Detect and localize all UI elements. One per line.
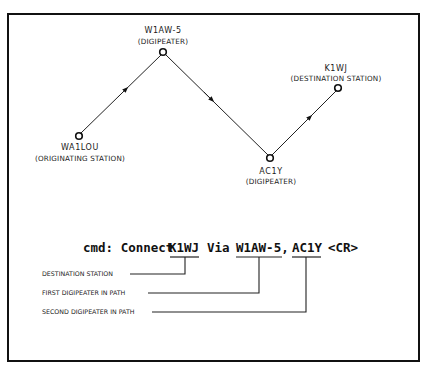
command-digi2: AC1Y	[292, 240, 323, 255]
station-circle-icon	[76, 133, 83, 140]
arrow-icon	[303, 117, 310, 124]
node-wa1lou: WA1LOU (ORIGINATING STATION)	[35, 133, 125, 163]
command-terminator: <CR>	[328, 240, 358, 255]
leader-digi2	[152, 257, 306, 312]
node-call: W1AW-5	[144, 26, 181, 35]
command-digi1: W1AW-5,	[236, 240, 289, 255]
node-call: K1WJ	[324, 64, 347, 73]
station-circle-icon	[267, 155, 274, 162]
node-call: WA1LOU	[61, 143, 99, 152]
command-destination: K1WJ	[169, 240, 199, 255]
arrow-icon	[118, 89, 126, 97]
node-role: (DESTINATION STATION)	[291, 74, 382, 83]
node-ac1y: AC1Y (DIGIPEATER)	[246, 155, 297, 186]
node-role: (ORIGINATING STATION)	[35, 154, 125, 163]
command-via: Via	[207, 240, 230, 255]
node-call: AC1Y	[259, 167, 282, 176]
digipeater-path-diagram: WA1LOU (ORIGINATING STATION) W1AW-5 (DIG…	[0, 0, 434, 382]
path-edges	[81, 55, 336, 155]
node-k1wj: K1WJ (DESTINATION STATION)	[291, 64, 382, 91]
annotation-first-digi: FIRST DIGIPEATER IN PATH	[42, 289, 126, 296]
leader-destination	[130, 257, 185, 274]
station-circle-icon	[160, 49, 167, 56]
command-prefix: cmd: Connect	[83, 240, 173, 255]
leader-digi1	[148, 257, 259, 293]
arrow-icon	[204, 92, 212, 100]
edge-w1aw5-ac1y	[166, 55, 268, 155]
node-role: (DIGIPEATER)	[138, 37, 189, 46]
node-w1aw5: W1AW-5 (DIGIPEATER)	[138, 26, 189, 55]
annotation-destination: DESTINATION STATION	[42, 270, 113, 277]
command-line: cmd: Connect K1WJ Via W1AW-5, AC1Y <CR>	[83, 240, 358, 255]
annotation-second-digi: SECOND DIGIPEATER IN PATH	[42, 308, 135, 315]
station-circle-icon	[335, 85, 342, 92]
node-role: (DIGIPEATER)	[246, 177, 297, 186]
